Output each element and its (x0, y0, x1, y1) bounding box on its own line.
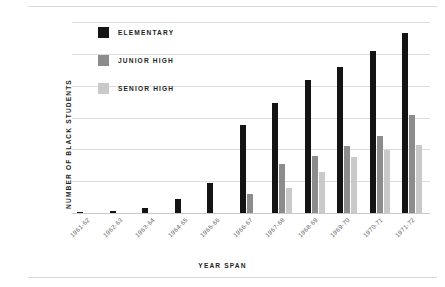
bar (77, 212, 83, 213)
x-tick-label: 1963-64 (134, 216, 156, 238)
bar (319, 172, 325, 213)
bar-chart-figure: NUMBER OF BLACK STUDENTS YEAR SPAN 02,00… (0, 0, 445, 287)
legend-item: ELEMENTARY (98, 27, 174, 38)
bar (416, 145, 422, 213)
top-divider-rule (28, 6, 437, 7)
bar (377, 136, 383, 213)
legend-swatch-icon (98, 27, 109, 38)
bar (344, 146, 350, 213)
bar (247, 194, 253, 213)
bar (110, 211, 116, 213)
bar (175, 199, 181, 213)
x-tick-label: 1962-63 (101, 216, 123, 238)
bar-group (402, 22, 429, 213)
gridline (72, 213, 430, 214)
bar (409, 115, 415, 213)
x-tick-label: 1965-66 (199, 216, 221, 238)
x-tick-label: 1970-71 (361, 216, 383, 238)
x-tick-label: 1968-69 (296, 216, 318, 238)
x-axis-title: YEAR SPAN (0, 262, 445, 269)
legend-item: SENIOR HIGH (98, 83, 174, 94)
bar (207, 183, 213, 213)
bar-group (337, 22, 364, 213)
bar (402, 33, 408, 213)
x-tick-label: 1964-65 (166, 216, 188, 238)
bar (279, 164, 285, 213)
bar-group (370, 22, 397, 213)
legend-item: JUNIOR HIGH (98, 55, 174, 66)
legend-label: ELEMENTARY (118, 29, 174, 36)
bar-group (240, 22, 267, 213)
legend-swatch-icon (98, 55, 109, 66)
bar (337, 67, 343, 213)
bar-group (305, 22, 332, 213)
legend-label: JUNIOR HIGH (118, 57, 174, 64)
x-tick-label: 1971-72 (394, 216, 416, 238)
bottom-divider-rule (28, 277, 437, 278)
bar (370, 51, 376, 213)
bar (351, 157, 357, 213)
bar (305, 80, 311, 213)
x-tick-label: 1969-70 (329, 216, 351, 238)
bar (384, 150, 390, 213)
bar (312, 156, 318, 213)
legend-label: SENIOR HIGH (118, 85, 174, 92)
bar (272, 103, 278, 213)
bar-group (175, 22, 202, 213)
bar (240, 125, 246, 213)
x-tick-label: 1961-62 (68, 216, 90, 238)
bar (142, 208, 148, 213)
x-tick-labels: 1961-621962-631963-641964-651965-661966-… (72, 216, 430, 262)
chart-legend: ELEMENTARYJUNIOR HIGHSENIOR HIGH (98, 27, 174, 94)
legend-swatch-icon (98, 83, 109, 94)
bar-group (207, 22, 234, 213)
bar (286, 188, 292, 213)
x-tick-label: 1967-68 (264, 216, 286, 238)
x-tick-label: 1966-67 (231, 216, 253, 238)
bar-group (272, 22, 299, 213)
